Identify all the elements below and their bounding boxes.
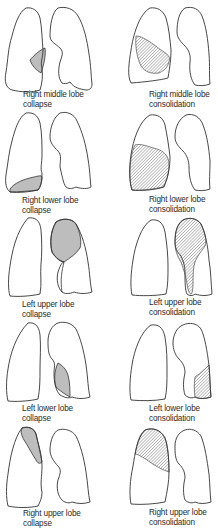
panel-right-middle-lobe-collapse: Right middle lobe collapse: [0, 0, 109, 106]
panel-left-lower-lobe-consolidation: Left lower lobe consolidation: [109, 315, 218, 421]
collapse-shading: [10, 176, 42, 192]
collapse-shading: [55, 363, 70, 397]
panel-right-middle-lobe-consolidation: Right middle lobe consolidation: [109, 0, 218, 106]
panel-caption: Right upper lobe collapse: [23, 509, 81, 528]
panel-right-upper-lobe-consolidation: Right upper lobe consolidation: [109, 420, 218, 526]
panel-left-lower-lobe-collapse: Left lower lobe collapse: [0, 315, 109, 421]
consolidation-hatching: [175, 218, 206, 294]
collapse-shading: [51, 219, 81, 262]
consolidation-hatching: [130, 144, 169, 190]
panel-right-lower-lobe-consolidation: Right lower lobe consolidation: [109, 105, 218, 211]
panel-left-upper-lobe-consolidation: Left upper lobe consolidation: [109, 210, 218, 316]
panel-caption: Right upper lobe consolidation: [149, 508, 207, 527]
panel-right-lower-lobe-collapse: Right lower lobe collapse: [0, 105, 109, 211]
panel-right-upper-lobe-collapse: Right upper lobe collapse: [0, 420, 109, 526]
consolidation-hatching: [136, 36, 170, 73]
panel-left-upper-lobe-collapse: Left upper lobe collapse: [0, 210, 109, 316]
lung-lobe-diagram: Right middle lobe collapse Right middle …: [0, 0, 218, 531]
consolidation-hatching: [194, 365, 211, 399]
